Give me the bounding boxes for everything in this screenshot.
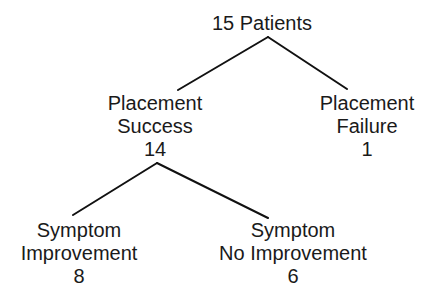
node-placement-failure: Placement Failure 1 [320,92,415,161]
symptom-no-improvement-line2: No Improvement [219,242,367,265]
patient-outcome-tree: 15 Patients Placement Success 14 Placeme… [0,0,439,301]
symptom-no-improvement-line1: Symptom [219,219,367,242]
node-placement-success: Placement Success 14 [108,92,203,161]
root-label: 15 Patients [212,12,312,35]
symptom-no-improvement-count: 6 [219,265,367,288]
placement-failure-line2: Failure [320,115,415,138]
edge-success-to-symptom-improvement [73,163,157,215]
placement-failure-count: 1 [320,138,415,161]
placement-success-count: 14 [108,138,203,161]
node-symptom-improvement: Symptom Improvement 8 [21,219,138,288]
symptom-improvement-line1: Symptom [21,219,138,242]
symptom-improvement-line2: Improvement [21,242,138,265]
placement-success-line1: Placement [108,92,203,115]
edge-success-to-symptom-no-improvement [157,163,268,218]
node-root: 15 Patients [212,12,312,35]
placement-failure-line1: Placement [320,92,415,115]
edge-root-to-placement-failure [268,37,347,89]
edge-root-to-placement-success [178,37,268,90]
placement-success-line2: Success [108,115,203,138]
symptom-improvement-count: 8 [21,265,138,288]
node-symptom-no-improvement: Symptom No Improvement 6 [219,219,367,288]
